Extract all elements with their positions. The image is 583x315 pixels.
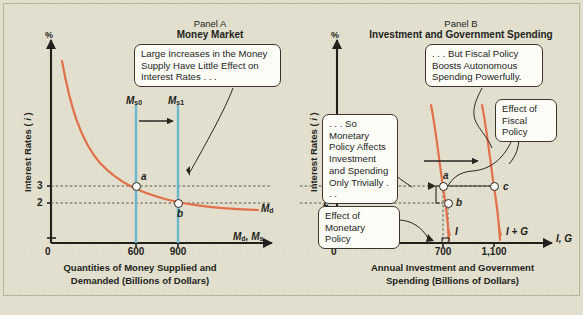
panel-a-x-caption-line2: Demanded (Billions of Dollars) [40,275,240,287]
panel-a-callout: Large Increases in the Money Supply Have… [134,44,281,87]
panel-a-ms0-label: Ms0 [126,95,142,108]
panel-a-ylabel-2: 2 [37,197,43,209]
panel-b-xlabel-1100: 1,100 [478,246,510,258]
panel-a-x-axis-label-ms: M [251,231,259,242]
panel-b-point-c-label: c [503,181,509,193]
panel-b-y-axis-label-var: i [308,118,319,121]
panel-a-y-axis-label: Interest Rates ( i ) [22,112,33,192]
panel-a-xlabel-900: 900 [166,246,190,258]
panel-b-point-c [490,182,499,191]
panel-a-guides [51,186,272,203]
panel-b-monetary-callout-head [428,182,436,190]
panel-b-callout-fiscal: . . . But Fiscal Policy Boosts Autonomou… [425,44,543,87]
panel-a-point-a [132,182,141,191]
panel-b-kicker: Panel B [366,18,556,29]
panel-a-y-axis-label-prefix: Interest Rates ( [22,121,33,192]
panel-b-effect-monetary-leader [398,220,428,238]
panel-a-ylabel-3: 3 [37,180,43,192]
panel-a-origin: 0 [45,246,51,258]
panel-b-point-a-label: a [443,170,449,182]
panel-b-y-unit: % [331,30,339,41]
panel-b-point-b-label: b [456,197,462,209]
panel-b-xlabel-700: 700 [431,246,455,258]
panel-a-md-label: Md [261,203,274,216]
panel-b-x-axis-label-g: G [564,233,572,244]
panel-b-title: Investment and Government Spending [361,29,561,41]
panel-a-callout-leader-head [186,166,190,176]
panel-b-fiscal-callout-leader [474,88,492,148]
panel-a-point-a-label: a [141,171,147,183]
panel-b-i-label: I [455,226,458,238]
panel-a-y-axis-label-var: i [22,118,33,121]
panel-a-x-caption-line1: Quantities of Money Supplied and [40,262,240,274]
panel-a-xlabel-600: 600 [124,246,148,258]
panel-b-callout-monetary: . . . So Monetary Policy Affects Investm… [322,114,398,204]
panel-b-ig-label: I + G [506,226,528,238]
panel-b-callout-effect-fiscal: Effect of Fiscal Policy [495,99,557,142]
panel-b-x-caption-line1: Annual Investment and Government [345,262,560,274]
panel-b-effect-monetary-head [426,234,434,242]
panel-b-point-a [439,182,448,191]
panel-b-callout-effect-monetary: Effect of Monetary Policy [318,206,400,249]
panel-a-y-axis-label-suffix: ) [22,112,33,118]
panel-a-x-axis-label-ms-sub: s [260,235,264,242]
panel-b-x-caption-line2: Spending (Billions of Dollars) [345,275,560,287]
panel-b-y-axis-label: Interest Rates ( i ) [308,112,319,192]
panel-a-x-axis-label: Md, Ms [233,231,263,244]
panel-b-x-axis-label: I, G [556,233,572,245]
panel-a-title: Money Market [150,29,270,41]
panel-a-y-unit: % [45,30,53,41]
panel-b-y-axis-label-prefix: Interest Rates ( [308,121,319,192]
panel-a-ms1-label-sub: s1 [176,99,184,106]
panel-a-kicker: Panel A [150,18,270,29]
economics-figure: Panel A Money Market % Interest Rates ( … [0,0,583,315]
panel-a-ms1-label: Ms1 [168,95,184,108]
panel-a-callout-leader [190,88,233,172]
panel-a-md-label-sub: d [269,207,273,214]
panel-a-ms0-label-sub: s0 [134,99,142,106]
panel-b-point-b [444,199,453,208]
panel-a-point-b-label: b [177,208,183,220]
panel-b-y-axis-label-suffix: ) [308,112,319,118]
panel-a-point-b [174,199,183,208]
